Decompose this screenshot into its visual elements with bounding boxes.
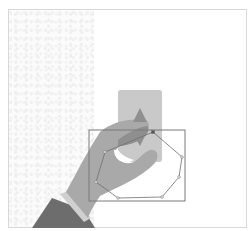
- vertex-handle[interactable]: [117, 197, 120, 200]
- vertex-handle[interactable]: [178, 176, 181, 179]
- vertex-handle[interactable]: [104, 151, 107, 154]
- vertex-handle[interactable]: [181, 156, 184, 159]
- vertex-handle[interactable]: [95, 181, 98, 184]
- vertex-handle[interactable]: [152, 131, 155, 134]
- vertex-handle[interactable]: [161, 196, 164, 199]
- annotation-scene[interactable]: [0, 0, 250, 231]
